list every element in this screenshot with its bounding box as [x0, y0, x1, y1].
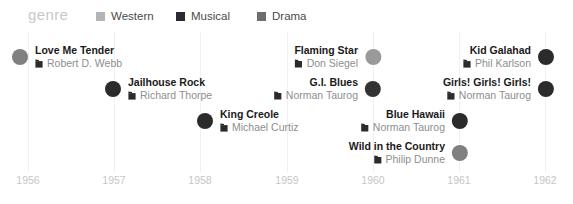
- x-axis: 1956195719581959196019611962: [0, 172, 573, 204]
- event-title: Wild in the Country: [349, 140, 445, 153]
- timeline-event[interactable]: Jailhouse RockRichard Thorpe: [105, 76, 212, 102]
- plot-area: Love Me TenderRobert D. WebbJailhouse Ro…: [0, 32, 573, 172]
- event-title: King Creole: [220, 108, 279, 121]
- square-swatch-icon: [257, 12, 266, 21]
- axis-tick-label: 1959: [275, 174, 298, 186]
- event-director-name: Norman Taurog: [459, 89, 531, 102]
- event-dot[interactable]: [538, 49, 554, 65]
- event-label: G.I. BluesNorman Taurog: [274, 76, 358, 102]
- legend-item-label: Drama: [272, 10, 307, 22]
- event-director-name: Philip Dunne: [385, 153, 445, 166]
- event-director: Don Siegel: [295, 57, 358, 70]
- timeline-event[interactable]: Love Me TenderRobert D. Webb: [12, 44, 122, 70]
- event-director-name: Norman Taurog: [286, 89, 358, 102]
- event-director: Phil Karlson: [463, 57, 531, 70]
- event-title: Flaming Star: [294, 44, 358, 57]
- gridline: [287, 32, 288, 172]
- timeline-event[interactable]: Girls! Girls! Girls!Norman Taurog: [443, 76, 554, 102]
- event-dot[interactable]: [538, 81, 554, 97]
- event-label: Wild in the CountryPhilip Dunne: [349, 140, 445, 166]
- legend-item-label: Western: [111, 10, 154, 22]
- timeline-event[interactable]: Flaming StarDon Siegel: [294, 44, 381, 70]
- clapperboard-icon: [361, 123, 369, 132]
- clapperboard-icon: [463, 59, 471, 68]
- timeline-event[interactable]: G.I. BluesNorman Taurog: [274, 76, 381, 102]
- event-director-name: Michael Curtiz: [232, 121, 299, 134]
- legend-item-label: Musical: [191, 10, 230, 22]
- event-director-name: Don Siegel: [307, 57, 358, 70]
- event-director: Philip Dunne: [373, 153, 445, 166]
- axis-tick-label: 1958: [188, 174, 211, 186]
- event-dot[interactable]: [452, 113, 468, 129]
- axis-tick-label: 1960: [361, 174, 384, 186]
- event-title: Love Me Tender: [35, 44, 114, 57]
- event-label: Girls! Girls! Girls!Norman Taurog: [443, 76, 531, 102]
- legend-item-drama[interactable]: Drama: [257, 10, 307, 22]
- clapperboard-icon: [295, 59, 303, 68]
- axis-tick-label: 1957: [102, 174, 125, 186]
- event-title: G.I. Blues: [310, 76, 358, 89]
- event-dot[interactable]: [105, 81, 121, 97]
- legend-item-musical[interactable]: Musical: [176, 10, 230, 22]
- timeline-chart: genre Western Musical Drama Love Me Tend…: [0, 0, 573, 204]
- timeline-event[interactable]: Blue HawaiiNorman Taurog: [361, 108, 468, 134]
- event-director-name: Phil Karlson: [475, 57, 531, 70]
- event-director: Michael Curtiz: [220, 121, 299, 134]
- clapperboard-icon: [128, 91, 136, 100]
- axis-tick-label: 1961: [447, 174, 470, 186]
- event-title: Girls! Girls! Girls!: [443, 76, 531, 89]
- clapperboard-icon: [447, 91, 455, 100]
- legend-title: genre: [28, 6, 68, 23]
- axis-tick-label: 1962: [533, 174, 556, 186]
- event-dot[interactable]: [12, 49, 28, 65]
- event-title: Kid Galahad: [470, 44, 531, 57]
- event-director: Norman Taurog: [274, 89, 358, 102]
- legend-item-western[interactable]: Western: [96, 10, 154, 22]
- event-director: Norman Taurog: [447, 89, 531, 102]
- timeline-event[interactable]: Kid GalahadPhil Karlson: [463, 44, 554, 70]
- axis-tick-label: 1956: [16, 174, 39, 186]
- event-label: Love Me TenderRobert D. Webb: [35, 44, 122, 70]
- square-swatch-icon: [96, 12, 105, 21]
- event-director: Robert D. Webb: [35, 57, 122, 70]
- event-dot[interactable]: [197, 113, 213, 129]
- square-swatch-icon: [176, 12, 185, 21]
- clapperboard-icon: [274, 91, 282, 100]
- clapperboard-icon: [35, 59, 43, 68]
- event-label: Flaming StarDon Siegel: [294, 44, 358, 70]
- event-dot[interactable]: [365, 49, 381, 65]
- event-director-name: Richard Thorpe: [140, 89, 212, 102]
- event-dot[interactable]: [365, 81, 381, 97]
- event-director-name: Robert D. Webb: [47, 57, 122, 70]
- event-label: Jailhouse RockRichard Thorpe: [128, 76, 212, 102]
- clapperboard-icon: [373, 155, 381, 164]
- event-label: King CreoleMichael Curtiz: [220, 108, 299, 134]
- timeline-event[interactable]: King CreoleMichael Curtiz: [197, 108, 299, 134]
- event-director: Richard Thorpe: [128, 89, 212, 102]
- gridline: [200, 32, 201, 172]
- event-title: Jailhouse Rock: [128, 76, 205, 89]
- event-director: Norman Taurog: [361, 121, 445, 134]
- event-director-name: Norman Taurog: [373, 121, 445, 134]
- legend: genre Western Musical Drama: [0, 0, 573, 32]
- event-label: Blue HawaiiNorman Taurog: [361, 108, 445, 134]
- clapperboard-icon: [220, 123, 228, 132]
- event-title: Blue Hawaii: [386, 108, 445, 121]
- event-label: Kid GalahadPhil Karlson: [463, 44, 531, 70]
- event-dot[interactable]: [452, 145, 468, 161]
- timeline-event[interactable]: Wild in the CountryPhilip Dunne: [349, 140, 468, 166]
